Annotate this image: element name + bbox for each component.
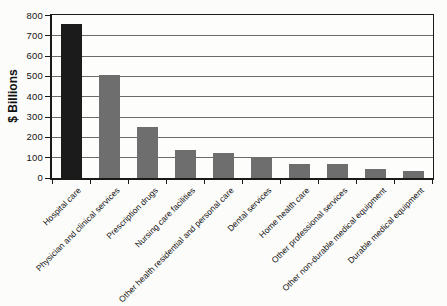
bar xyxy=(213,153,234,178)
y-tick-label: 600 xyxy=(9,51,43,61)
y-gridline xyxy=(52,56,433,57)
x-tick-mark xyxy=(432,180,433,184)
y-gridline xyxy=(52,35,433,36)
bar xyxy=(251,157,272,178)
x-tick-mark xyxy=(356,180,357,184)
bar xyxy=(327,164,348,178)
bar xyxy=(365,169,386,178)
spending-bar-chart: $ Billions 0100200300400500600700800 Hos… xyxy=(0,0,447,306)
bar xyxy=(403,171,424,178)
x-tick-mark xyxy=(128,180,129,184)
x-tick-mark xyxy=(280,180,281,184)
y-tick-label: 800 xyxy=(9,11,43,21)
x-tick-mark xyxy=(90,180,91,184)
y-tick-label: 700 xyxy=(9,31,43,41)
x-tick-mark xyxy=(52,180,53,184)
y-tick-label: 100 xyxy=(9,153,43,163)
x-tick-mark xyxy=(318,180,319,184)
bar xyxy=(61,24,82,178)
y-tick-label: 300 xyxy=(9,112,43,122)
x-tick-mark xyxy=(242,180,243,184)
x-category-label: Durable medical equipment xyxy=(346,186,426,266)
x-tick-mark xyxy=(394,180,395,184)
bar xyxy=(175,150,196,178)
bar xyxy=(137,127,158,178)
x-category-label: Other professional services xyxy=(271,186,350,265)
y-tick-label: 200 xyxy=(9,132,43,142)
y-tick-label: 500 xyxy=(9,71,43,81)
x-tick-mark xyxy=(204,180,205,184)
bar xyxy=(289,164,310,178)
y-tick-label: 400 xyxy=(9,92,43,102)
y-tick-label: 0 xyxy=(9,173,43,183)
plot-area xyxy=(50,14,434,180)
bar xyxy=(99,75,120,178)
x-tick-mark xyxy=(166,180,167,184)
